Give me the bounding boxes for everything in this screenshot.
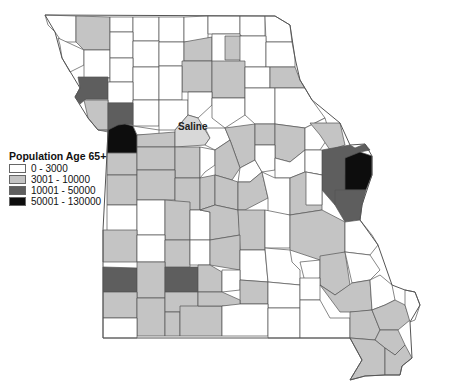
county bbox=[200, 147, 215, 178]
county bbox=[103, 318, 137, 338]
county bbox=[268, 282, 300, 308]
county bbox=[110, 32, 133, 58]
county bbox=[103, 230, 137, 262]
county bbox=[133, 17, 159, 41]
county bbox=[255, 124, 275, 145]
county bbox=[335, 190, 366, 222]
county bbox=[133, 67, 159, 100]
county bbox=[265, 210, 290, 248]
county bbox=[159, 17, 184, 42]
county bbox=[165, 312, 180, 336]
legend-label: 50001 - 130000 bbox=[31, 196, 101, 207]
county bbox=[240, 250, 268, 282]
county bbox=[159, 66, 182, 100]
legend-swatch-3001-10000 bbox=[9, 175, 26, 184]
county-label-saline: Saline bbox=[178, 121, 207, 132]
legend-label: 10001 - 50000 bbox=[31, 185, 96, 196]
county bbox=[45, 15, 76, 42]
county bbox=[200, 175, 215, 210]
county bbox=[198, 292, 240, 306]
county bbox=[107, 153, 137, 175]
county bbox=[212, 61, 245, 98]
legend-swatch-50001-130000 bbox=[9, 197, 26, 206]
legend-item: 0 - 3000 bbox=[9, 163, 106, 174]
county bbox=[108, 82, 133, 103]
county bbox=[240, 280, 268, 304]
county bbox=[110, 58, 133, 82]
legend-item: 50001 - 130000 bbox=[9, 196, 106, 207]
legend-swatch-10001-50000 bbox=[9, 186, 26, 195]
county bbox=[137, 235, 165, 262]
county bbox=[268, 308, 300, 338]
county bbox=[266, 42, 295, 67]
county bbox=[76, 16, 110, 50]
county bbox=[190, 210, 210, 240]
county bbox=[240, 16, 265, 36]
legend-swatch-0-3000 bbox=[9, 164, 26, 173]
county bbox=[159, 42, 184, 66]
county bbox=[225, 36, 242, 60]
legend-title: Population Age 65+ bbox=[9, 150, 106, 162]
county bbox=[137, 132, 175, 147]
county bbox=[245, 88, 275, 124]
county bbox=[305, 150, 322, 175]
legend-label: 0 - 3000 bbox=[31, 163, 68, 174]
county bbox=[137, 200, 165, 235]
county bbox=[188, 92, 212, 118]
county bbox=[222, 304, 268, 336]
county bbox=[208, 16, 240, 34]
legend-item: 3001 - 10000 bbox=[9, 174, 106, 185]
county bbox=[165, 240, 190, 268]
county bbox=[290, 210, 345, 260]
county bbox=[133, 41, 159, 67]
county bbox=[245, 67, 270, 88]
county bbox=[222, 270, 240, 292]
county bbox=[137, 170, 175, 200]
county bbox=[137, 298, 165, 336]
county bbox=[198, 265, 222, 292]
county bbox=[165, 267, 198, 292]
county bbox=[103, 267, 137, 292]
county bbox=[107, 175, 137, 205]
county bbox=[238, 210, 265, 250]
county bbox=[103, 292, 137, 318]
county bbox=[175, 147, 200, 178]
county bbox=[137, 262, 165, 298]
county bbox=[215, 175, 238, 210]
county bbox=[165, 200, 190, 240]
county bbox=[265, 248, 300, 285]
county bbox=[180, 306, 222, 336]
map-legend: Population Age 65+ 0 - 3000 3001 - 10000… bbox=[9, 150, 106, 207]
county bbox=[137, 147, 175, 170]
county bbox=[107, 124, 137, 153]
county bbox=[345, 152, 372, 190]
county bbox=[182, 61, 212, 92]
county bbox=[300, 278, 320, 300]
county bbox=[190, 240, 210, 265]
county bbox=[210, 235, 240, 270]
county bbox=[306, 172, 322, 205]
county bbox=[350, 338, 385, 380]
county bbox=[84, 50, 110, 78]
legend-item: 10001 - 50000 bbox=[9, 185, 106, 196]
county bbox=[110, 17, 133, 32]
legend-label: 3001 - 10000 bbox=[31, 174, 90, 185]
county bbox=[212, 98, 245, 128]
county bbox=[133, 100, 159, 126]
county bbox=[265, 16, 292, 42]
